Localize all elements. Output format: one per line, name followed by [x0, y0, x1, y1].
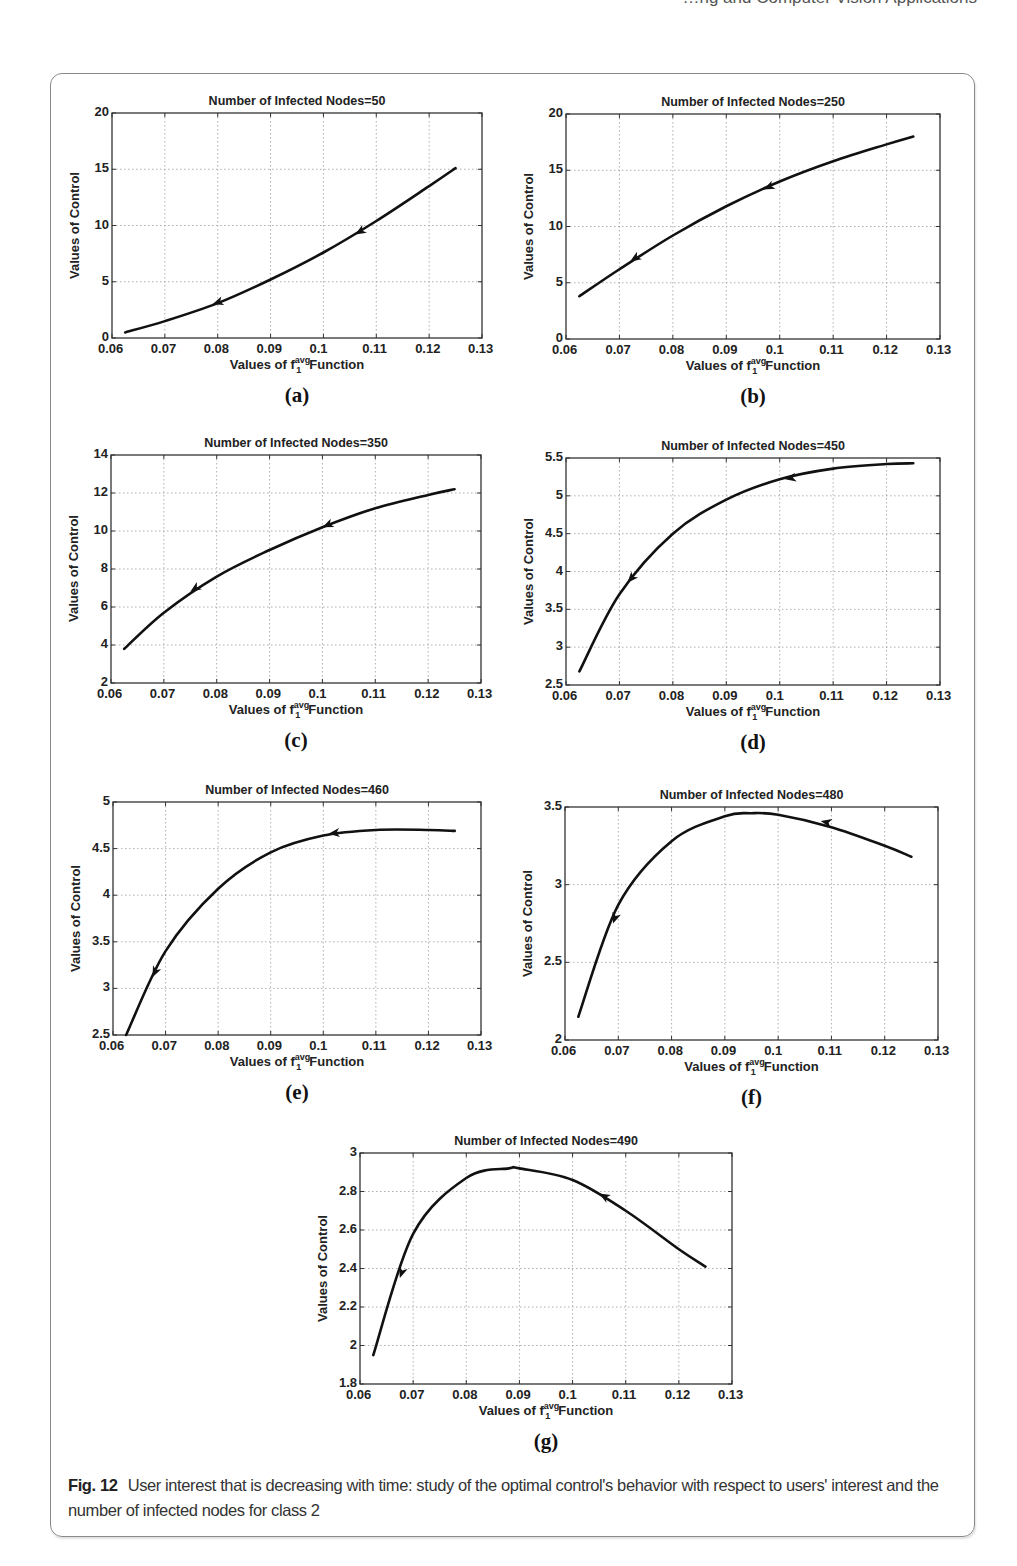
y-axis-label: Values of Control	[520, 858, 535, 988]
subfigure-label: (e)	[285, 1080, 308, 1105]
x-tick-label: 0.12	[871, 1043, 896, 1058]
x-tick-label: 0.13	[468, 341, 493, 356]
x-axis-label-part: avg	[749, 1057, 765, 1067]
x-tick-label: 0.08	[452, 1387, 477, 1402]
y-tick-label: 3.5	[545, 600, 563, 615]
chart-panel-g: Number of Infected Nodes=4901.822.22.42.…	[360, 1153, 732, 1384]
y-axis-label: Values of Control	[67, 160, 82, 290]
y-axis-label: Values of Control	[521, 506, 536, 636]
y-tick-label: 4	[101, 636, 108, 651]
x-tick-label: 0.11	[362, 341, 387, 356]
caption-text: User interest that is decreasing with ti…	[68, 1476, 939, 1519]
x-tick-label: 0.06	[346, 1387, 371, 1402]
x-tick-label: 0.1	[764, 1043, 782, 1058]
x-axis-label-part: 1	[295, 710, 300, 720]
y-tick-label: 2.5	[544, 953, 562, 968]
x-axis-label-part: Values of f	[686, 358, 751, 373]
x-axis-label-part: avg	[544, 1401, 560, 1411]
x-tick-label: 0.09	[257, 1038, 282, 1053]
control-curve	[579, 463, 913, 671]
x-tick-label: 0.11	[612, 1387, 637, 1402]
plot-area	[566, 458, 940, 685]
chart-title: Number of Infected Nodes=460	[205, 783, 389, 797]
x-axis-label-part: avg	[294, 700, 310, 710]
x-axis-label-part: 1	[545, 1411, 550, 1421]
y-tick-label: 2.4	[339, 1260, 357, 1275]
y-tick-label: 2.6	[339, 1221, 357, 1236]
x-axis-label-part: Function	[309, 357, 364, 372]
x-tick-label: 0.06	[99, 1038, 124, 1053]
x-axis-label-part: Function	[308, 702, 363, 717]
x-axis-label-part: avg	[295, 1052, 311, 1062]
x-tick-label: 0.11	[361, 686, 386, 701]
x-axis-label-part: Function	[309, 1054, 364, 1069]
plot-area	[360, 1153, 732, 1384]
x-tick-label: 0.13	[926, 342, 951, 357]
x-tick-label: 0.1	[309, 341, 327, 356]
y-tick-label: 4.5	[545, 525, 563, 540]
x-axis-label: Values of favg1Function	[230, 1054, 364, 1069]
control-curve	[578, 813, 911, 1017]
control-curve	[125, 168, 455, 332]
x-tick-label: 0.09	[711, 1043, 736, 1058]
x-tick-label: 0.12	[414, 686, 439, 701]
x-tick-label: 0.06	[552, 342, 577, 357]
x-tick-label: 0.11	[819, 688, 844, 703]
y-tick-label: 4.5	[92, 840, 110, 855]
chart-panel-d: Number of Infected Nodes=4502.533.544.55…	[566, 458, 940, 685]
x-tick-label: 0.11	[817, 1043, 842, 1058]
chart-panel-c: Number of Infected Nodes=35024681012140.…	[111, 455, 481, 683]
y-tick-label: 15	[95, 160, 109, 175]
subfigure-label: (f)	[741, 1085, 762, 1110]
y-tick-label: 20	[549, 105, 563, 120]
x-tick-label: 0.13	[926, 688, 951, 703]
x-tick-label: 0.13	[718, 1387, 743, 1402]
direction-arrow-icon	[148, 965, 161, 979]
control-curve	[126, 830, 455, 1035]
chart-title: Number of Infected Nodes=490	[454, 1134, 638, 1148]
x-tick-label: 0.09	[505, 1387, 530, 1402]
y-tick-label: 15	[549, 161, 563, 176]
x-tick-label: 0.1	[309, 1038, 327, 1053]
subfigure-label: (a)	[285, 383, 310, 408]
chart-panel-f: Number of Infected Nodes=48022.533.50.06…	[565, 807, 938, 1040]
x-tick-label: 0.1	[766, 688, 784, 703]
subfigure-label: (d)	[740, 730, 766, 755]
subfigure-label: (b)	[740, 384, 766, 409]
x-axis-label-part: Values of f	[686, 704, 751, 719]
chart-title: Number of Infected Nodes=250	[661, 95, 845, 109]
x-tick-label: 0.08	[659, 342, 684, 357]
x-axis-label: Values of favg1Function	[229, 702, 363, 717]
control-curve	[124, 489, 454, 649]
x-tick-label: 0.07	[150, 686, 175, 701]
x-axis-label: Values of favg1Function	[686, 358, 820, 373]
x-axis-label: Values of favg1Function	[686, 704, 820, 719]
x-tick-label: 0.07	[399, 1387, 424, 1402]
y-tick-label: 5.5	[545, 449, 563, 464]
y-axis-label: Values of Control	[315, 1203, 330, 1333]
y-tick-label: 4	[103, 886, 110, 901]
y-tick-label: 20	[95, 104, 109, 119]
x-tick-label: 0.07	[151, 341, 176, 356]
y-tick-label: 5	[103, 793, 110, 808]
control-curve	[579, 137, 913, 297]
y-tick-label: 12	[94, 484, 108, 499]
x-tick-label: 0.12	[873, 688, 898, 703]
x-axis-label-part: Function	[558, 1403, 613, 1418]
x-tick-label: 0.1	[766, 342, 784, 357]
x-tick-label: 0.1	[559, 1387, 577, 1402]
plot-area	[111, 455, 481, 683]
y-tick-label: 3	[555, 876, 562, 891]
x-axis-label-part: Values of f	[479, 1403, 544, 1418]
x-tick-label: 0.09	[257, 341, 282, 356]
x-axis-label-part: Function	[764, 1059, 819, 1074]
x-axis-label-part: Function	[765, 358, 820, 373]
y-tick-label: 4	[556, 563, 563, 578]
x-tick-label: 0.06	[552, 688, 577, 703]
x-tick-label: 0.12	[415, 341, 440, 356]
x-tick-label: 0.12	[665, 1387, 690, 1402]
x-tick-label: 0.09	[712, 342, 737, 357]
y-tick-label: 14	[94, 446, 108, 461]
x-tick-label: 0.06	[98, 341, 123, 356]
chart-title: Number of Infected Nodes=50	[209, 94, 386, 108]
